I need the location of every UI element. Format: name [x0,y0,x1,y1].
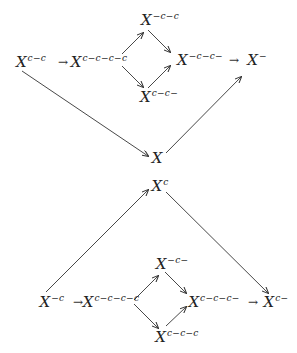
node-L: Xc−c−c [155,330,198,345]
arrow-C-E [148,30,170,52]
node-A: Xc−c [16,55,46,70]
node-F: X− [247,53,267,68]
arrow-M-N: → [248,295,258,309]
arrow-A-B: → [58,55,68,69]
node-B: Xc−c−c−c [71,55,128,70]
arrow-E-F: → [229,53,239,67]
node-I: X−c [40,295,65,310]
node-K: X−c− [156,257,189,272]
arrow-I-J: → [73,295,83,309]
arrow-L-M [166,307,186,326]
arrow-A-G [22,71,148,156]
node-E: X−c−c− [177,53,223,68]
arrow-K-M [165,272,186,293]
node-N: Xc− [264,295,289,310]
arrow-D-E [148,66,170,88]
node-G: X [152,151,163,166]
arrow-H-N [166,192,268,293]
node-D: Xc−c− [140,90,178,105]
node-H: Xc [151,179,168,194]
arrow-I-H [46,190,148,292]
arrow-B-C [122,33,143,54]
node-C: X−c−c [141,13,179,28]
node-J: Xc−c−c−c [83,295,140,310]
node-M: Xc−c−c− [188,295,239,310]
